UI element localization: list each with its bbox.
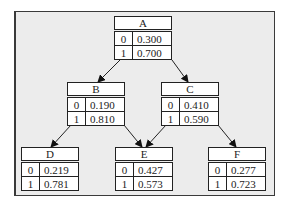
node-e-cpt: 00.427 10.573: [115, 162, 173, 191]
state-cell: 1: [162, 112, 180, 126]
prob-cell: 0.427: [134, 163, 173, 177]
state-cell: 1: [22, 177, 40, 191]
node-c-title: C: [161, 82, 219, 96]
node-e-title: E: [115, 147, 173, 161]
node-b: B 00.190 10.810: [67, 82, 125, 126]
table-row: 10.723: [209, 177, 266, 191]
table-row: 00.427: [116, 163, 173, 177]
table-row: 00.219: [22, 163, 79, 177]
state-cell: 0: [209, 163, 227, 177]
table-row: 10.700: [115, 46, 172, 60]
table-row: 00.190: [68, 98, 125, 112]
edge-a-b: [98, 60, 120, 82]
prob-cell: 0.810: [86, 112, 125, 126]
edge-a-c: [172, 60, 188, 82]
table-row: 10.590: [162, 112, 219, 126]
state-cell: 0: [22, 163, 40, 177]
edge-c-f: [218, 125, 236, 147]
node-f-cpt: 00.277 10.723: [208, 162, 266, 191]
edge-c-e: [146, 125, 166, 147]
state-cell: 1: [116, 177, 134, 191]
edge-b-e: [124, 125, 142, 147]
table-row: 10.810: [68, 112, 125, 126]
node-a-cpt: 00.300 10.700: [114, 31, 172, 60]
prob-cell: 0.277: [227, 163, 266, 177]
node-f: F 00.277 10.723: [208, 147, 266, 191]
node-c: C 00.410 10.590: [161, 82, 219, 126]
table-row: 10.573: [116, 177, 173, 191]
node-b-title: B: [67, 82, 125, 96]
node-a-title: A: [114, 16, 172, 30]
table-row: 00.300: [115, 32, 172, 46]
node-d-title: D: [21, 147, 79, 161]
edge-b-d: [51, 125, 71, 147]
node-f-title: F: [208, 147, 266, 161]
node-c-cpt: 00.410 10.590: [161, 97, 219, 126]
prob-cell: 0.723: [227, 177, 266, 191]
state-cell: 0: [162, 98, 180, 112]
state-cell: 0: [115, 32, 133, 46]
prob-cell: 0.190: [86, 98, 125, 112]
node-d: D 00.219 10.781: [21, 147, 79, 191]
node-a: A 00.300 10.700: [114, 16, 172, 60]
node-e: E 00.427 10.573: [115, 147, 173, 191]
table-row: 00.410: [162, 98, 219, 112]
prob-cell: 0.300: [133, 32, 172, 46]
node-b-cpt: 00.190 10.810: [67, 97, 125, 126]
prob-cell: 0.590: [180, 112, 219, 126]
table-row: 00.277: [209, 163, 266, 177]
prob-cell: 0.410: [180, 98, 219, 112]
state-cell: 0: [68, 98, 86, 112]
table-row: 10.781: [22, 177, 79, 191]
prob-cell: 0.781: [40, 177, 79, 191]
node-d-cpt: 00.219 10.781: [21, 162, 79, 191]
prob-cell: 0.219: [40, 163, 79, 177]
state-cell: 1: [209, 177, 227, 191]
prob-cell: 0.573: [134, 177, 173, 191]
state-cell: 1: [68, 112, 86, 126]
prob-cell: 0.700: [133, 46, 172, 60]
state-cell: 1: [115, 46, 133, 60]
state-cell: 0: [116, 163, 134, 177]
